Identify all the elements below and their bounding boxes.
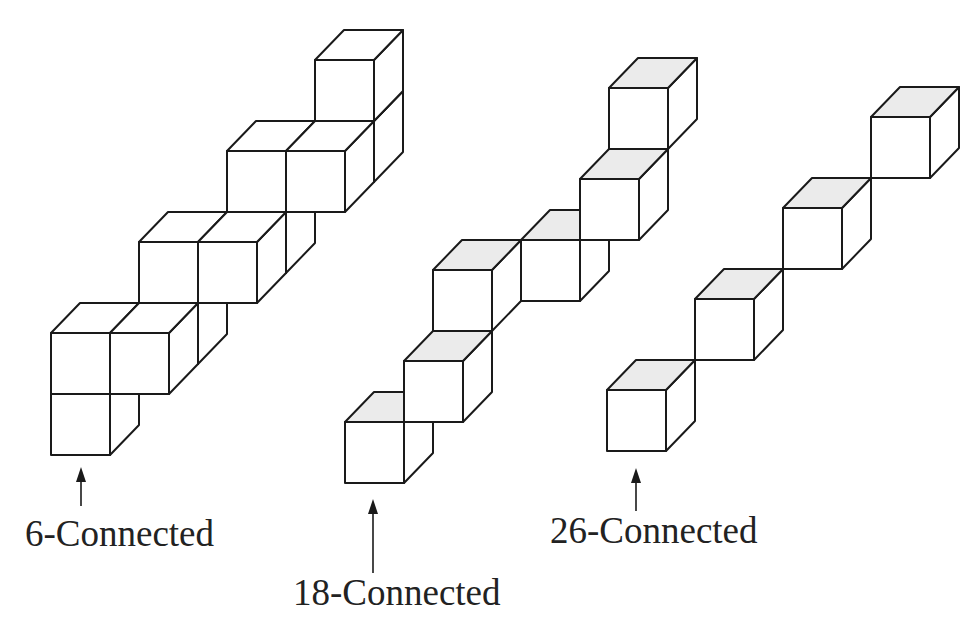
structure-6-connected (51, 30, 403, 455)
voxel-cube (871, 87, 959, 178)
cube-front-face (51, 333, 110, 394)
cube-front-face (51, 394, 110, 455)
cube-front-face (433, 270, 492, 331)
voxel-cube (783, 178, 871, 269)
cube-front-face (580, 179, 639, 240)
cube-front-face (404, 361, 463, 422)
cube-front-face (139, 242, 198, 303)
cube-front-face (607, 390, 666, 451)
cube-front-face (286, 151, 345, 212)
voxel-cube (433, 240, 521, 331)
voxel-cube (580, 149, 668, 240)
cube-front-face (110, 333, 169, 394)
cube-front-face (871, 117, 930, 178)
cube-front-face (345, 422, 404, 483)
label-6-connected: 6-Connected (25, 515, 214, 552)
cube-front-face (609, 88, 668, 149)
cube-front-face (315, 60, 374, 121)
voxel-cube (404, 331, 492, 422)
arrowhead-icon (76, 467, 86, 482)
voxel-cube (695, 269, 783, 360)
cube-front-face (695, 299, 754, 360)
arrowhead-icon (368, 499, 378, 514)
cube-front-face (198, 242, 257, 303)
label-18-connected: 18-Connected (293, 574, 501, 611)
label-26-connected: 26-Connected (550, 512, 758, 549)
arrowhead-icon (631, 468, 641, 483)
cube-front-face (521, 240, 580, 301)
cube-front-face (227, 151, 286, 212)
voxel-cube (609, 58, 697, 149)
cube-front-face (783, 208, 842, 269)
voxel-cube (607, 360, 695, 451)
